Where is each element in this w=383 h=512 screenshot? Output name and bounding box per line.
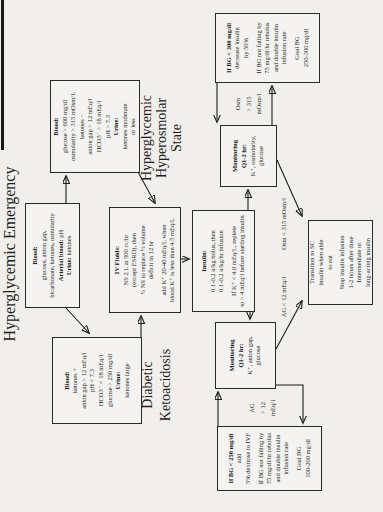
arrow-initial-to-dka-criteria [66, 308, 89, 333]
arrow-dka-monitoring-to-dka-outcome [276, 385, 303, 423]
arrow-hhs-criteria-to-iv-fluids [138, 172, 155, 203]
arrow-dka-monitoring-to-transition [276, 301, 302, 349]
flowchart-canvas: Hyperglycemic Emergency Diabetic Ketoaci… [0, 0, 383, 512]
connector-arrows [0, 0, 383, 512]
arrow-hhs-monitoring-to-transition [277, 160, 302, 216]
